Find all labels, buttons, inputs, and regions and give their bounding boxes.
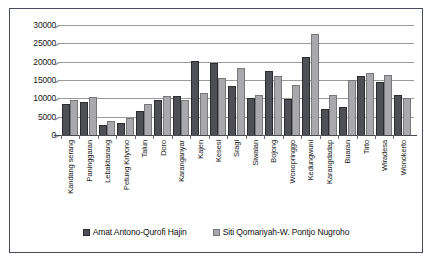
x-axis-category-label: Kedungwuni bbox=[306, 140, 315, 180]
bar-series-2 bbox=[218, 78, 226, 135]
bar-series-1 bbox=[357, 76, 365, 135]
x-axis-tick-mark bbox=[116, 135, 134, 139]
bar-series-1 bbox=[136, 111, 144, 135]
x-axis-category-label: Wiradesa bbox=[380, 140, 389, 171]
x-axis-tick-mark bbox=[209, 135, 227, 139]
bar-series-1 bbox=[80, 102, 88, 135]
legend-item[interactable]: Amat Antono-Qurofi Hajin bbox=[83, 227, 187, 237]
x-axis-category-label: Karanganyar bbox=[177, 140, 186, 182]
x-axis-category-label: Lebakbarang bbox=[103, 140, 112, 183]
bar-series-1 bbox=[265, 71, 273, 135]
x-axis-tick-mark bbox=[153, 135, 171, 139]
bar-group bbox=[135, 25, 153, 135]
bar-series-2 bbox=[348, 80, 356, 135]
bar-group bbox=[264, 25, 282, 135]
bar-series-1 bbox=[99, 125, 107, 135]
bar-group bbox=[357, 25, 375, 135]
bars-layer bbox=[59, 25, 414, 135]
x-axis-category-label: Talun bbox=[140, 140, 149, 157]
x-axis-category-label: Sragi bbox=[232, 140, 241, 157]
x-axis-label-cell: Siwalan bbox=[246, 140, 264, 220]
plot-area bbox=[59, 25, 414, 135]
bar-series-2 bbox=[274, 76, 282, 135]
bar-series-1 bbox=[394, 95, 402, 135]
x-axis-labels: Kandang serangPaninggaranLebakbarangPetu… bbox=[59, 140, 414, 220]
bar-series-1 bbox=[154, 100, 162, 135]
x-axis-category-label: Paninggaran bbox=[84, 140, 93, 181]
x-axis-tick-mark bbox=[301, 135, 319, 139]
bar-group bbox=[79, 25, 97, 135]
x-axis-category-label: Kesesi bbox=[213, 140, 222, 162]
bar-series-1 bbox=[302, 57, 310, 135]
x-axis-label-cell: Karanganyar bbox=[172, 140, 190, 220]
bar-series-2 bbox=[311, 34, 319, 135]
x-axis-label-cell: Wiradesa bbox=[375, 140, 393, 220]
legend-label: Siti Qomariyah-W. Pontjo Nugroho bbox=[223, 227, 350, 237]
x-axis-label-cell: Kandang serang bbox=[61, 140, 79, 220]
x-axis-tick-mark bbox=[172, 135, 190, 139]
bar-series-1 bbox=[228, 86, 236, 135]
x-axis-tick-mark bbox=[227, 135, 245, 139]
bar-series-2 bbox=[292, 85, 300, 135]
bar-series-1 bbox=[247, 98, 255, 135]
x-axis-tick-mark bbox=[357, 135, 375, 139]
bar-series-1 bbox=[321, 109, 329, 135]
x-axis-category-label: Petung Kriyono bbox=[121, 140, 130, 190]
bar-series-2 bbox=[107, 121, 115, 135]
legend-swatch-icon bbox=[213, 229, 220, 236]
bar-group bbox=[283, 25, 301, 135]
x-axis-label-cell: Paninggaran bbox=[79, 140, 97, 220]
x-axis-category-label: Wonokerto bbox=[398, 140, 407, 175]
bar-series-2 bbox=[181, 100, 189, 135]
bar-series-1 bbox=[210, 63, 218, 135]
bar-series-2 bbox=[255, 95, 263, 135]
x-axis-label-cell: Wonokerto bbox=[393, 140, 411, 220]
bar-series-1 bbox=[173, 96, 181, 135]
legend-swatch-icon bbox=[83, 229, 90, 236]
x-axis-category-label: Karangdadap bbox=[324, 140, 333, 184]
y-axis-tick-label: 30000 bbox=[33, 20, 56, 30]
x-axis-tick-mark bbox=[264, 135, 282, 139]
y-axis: 050001000015000200002500030000 bbox=[16, 25, 56, 135]
bar-series-2 bbox=[403, 98, 411, 135]
bar-group bbox=[172, 25, 190, 135]
x-axis-category-label: Kajen bbox=[195, 140, 204, 159]
bar-series-2 bbox=[126, 118, 134, 135]
x-axis-tick-mark bbox=[79, 135, 97, 139]
x-axis-tick-mark bbox=[98, 135, 116, 139]
bar-group bbox=[393, 25, 411, 135]
x-axis-tick-mark bbox=[320, 135, 338, 139]
bar-group bbox=[190, 25, 208, 135]
bar-series-2 bbox=[89, 97, 97, 135]
x-axis-tick-mark bbox=[338, 135, 356, 139]
bar-series-1 bbox=[117, 123, 125, 135]
x-axis-category-label: Buaran bbox=[343, 140, 352, 164]
x-axis-label-cell: Doro bbox=[153, 140, 171, 220]
bar-group bbox=[338, 25, 356, 135]
x-axis-label-cell: Bojong bbox=[264, 140, 282, 220]
bar-group bbox=[153, 25, 171, 135]
x-axis-tick-mark bbox=[246, 135, 264, 139]
bar-series-2 bbox=[366, 73, 374, 135]
x-axis-label-cell: Lebakbarang bbox=[98, 140, 116, 220]
bar-group bbox=[209, 25, 227, 135]
bar-series-2 bbox=[237, 68, 245, 135]
x-axis-tick-mark bbox=[61, 135, 79, 139]
bar-group bbox=[98, 25, 116, 135]
bar-series-2 bbox=[329, 95, 337, 135]
bar-series-1 bbox=[191, 61, 199, 135]
chart-legend: Amat Antono-Qurofi HajinSiti Qomariyah-W… bbox=[10, 227, 422, 237]
x-axis-category-label: Wonopringgo bbox=[287, 140, 296, 183]
x-axis-label-cell: Kedungwuni bbox=[301, 140, 319, 220]
bar-series-2 bbox=[144, 104, 152, 135]
bar-group bbox=[320, 25, 338, 135]
legend-item[interactable]: Siti Qomariyah-W. Pontjo Nugroho bbox=[213, 227, 350, 237]
x-axis-label-cell: Kajen bbox=[190, 140, 208, 220]
bar-series-2 bbox=[163, 96, 171, 136]
bar-series-2 bbox=[70, 100, 78, 135]
bar-series-1 bbox=[376, 82, 384, 135]
x-axis-label-cell: Talun bbox=[135, 140, 153, 220]
x-axis-label-cell: Karangdadap bbox=[320, 140, 338, 220]
bar-group bbox=[375, 25, 393, 135]
bar-series-2 bbox=[200, 93, 208, 135]
